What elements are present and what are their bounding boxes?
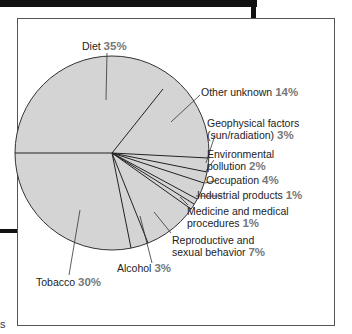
label-tobacco: Tobacco 30% — [36, 276, 101, 288]
label-alcohol: Alcohol 3% — [117, 262, 171, 274]
label-other-unknown: Other unknown 14% — [201, 86, 298, 98]
label-reproductive: Reproductive andsexual behavior 7% — [172, 234, 265, 258]
label-industrial: Industrial products 1% — [197, 189, 302, 201]
label-occupation: Occupation 4% — [206, 174, 279, 186]
label-geophysical: Geophysical factors(sun/radiation) 3% — [207, 117, 299, 141]
label-environmental: Environmentalpollution 2% — [207, 148, 274, 172]
label-diet: Diet 35% — [82, 40, 127, 52]
label-medicine: Medicine and medicalprocedures 1% — [187, 205, 289, 229]
